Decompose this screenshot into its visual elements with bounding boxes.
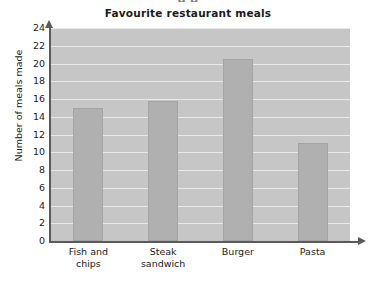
x-axis-tick-label: Fish andchips [51,246,126,270]
y-axis-tick-label: 22 [3,41,45,51]
x-axis-tick-labels: Fish andchipsSteaksandwichBurgerPasta [51,246,350,281]
x-axis-line [49,241,360,243]
y-axis-tick-label: 10 [3,148,45,158]
bar-chart: g p Favourite restaurant meals 024681012… [0,0,376,281]
y-axis-title: Number of meals made [13,26,24,186]
y-axis-line [49,27,51,242]
bar [148,101,178,241]
y-axis-tick-label: 8 [3,165,45,175]
y-axis-tick-label: 6 [3,183,45,193]
bar [223,59,253,241]
x-axis-arrow-icon [358,237,366,245]
y-axis-tick-label: 20 [3,59,45,69]
y-axis-tick-label: 12 [3,130,45,140]
x-axis-tick-label: Pasta [275,246,350,258]
x-axis-tick-label: Steaksandwich [126,246,201,270]
y-axis-tick-label: 24 [3,23,45,33]
gridline [51,46,350,47]
bar [73,108,103,241]
gridline [51,81,350,82]
y-axis-tick-label: 18 [3,77,45,87]
y-axis-tick-label: 0 [3,236,45,246]
bar [298,143,328,241]
x-axis-tick-label: Burger [201,246,276,258]
gridline [51,28,350,29]
y-axis-tick-label: 14 [3,112,45,122]
gridline [51,99,350,100]
y-axis-tick-label: 16 [3,94,45,104]
y-axis-tick-label: 2 [3,219,45,229]
chart-title: Favourite restaurant meals [0,7,376,19]
gridline [51,64,350,65]
clipped-header-text: g p [0,0,376,2]
plot-area [51,28,350,241]
y-axis-tick-label: 4 [3,201,45,211]
y-axis-arrow-icon [45,20,53,28]
